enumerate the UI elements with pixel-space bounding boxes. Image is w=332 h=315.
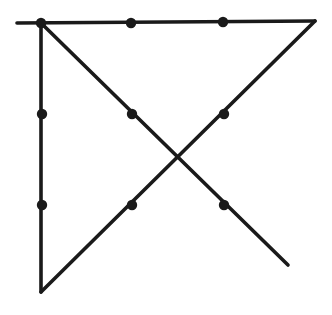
dot-r3c2	[127, 200, 137, 210]
dot-r2c1	[37, 109, 47, 119]
line-main-diagonal	[41, 23, 288, 265]
dot-r3c3	[219, 200, 229, 210]
dot-r1c1	[36, 18, 46, 28]
dot-r1c3	[218, 17, 228, 27]
dot-r1c2	[126, 18, 136, 28]
nine-dots-diagram	[0, 0, 332, 315]
line-top-horizontal	[17, 21, 315, 23]
solution-lines	[17, 21, 315, 292]
dot-r3c1	[37, 200, 47, 210]
dot-r2c3	[219, 109, 229, 119]
dot-r2c2	[127, 109, 137, 119]
